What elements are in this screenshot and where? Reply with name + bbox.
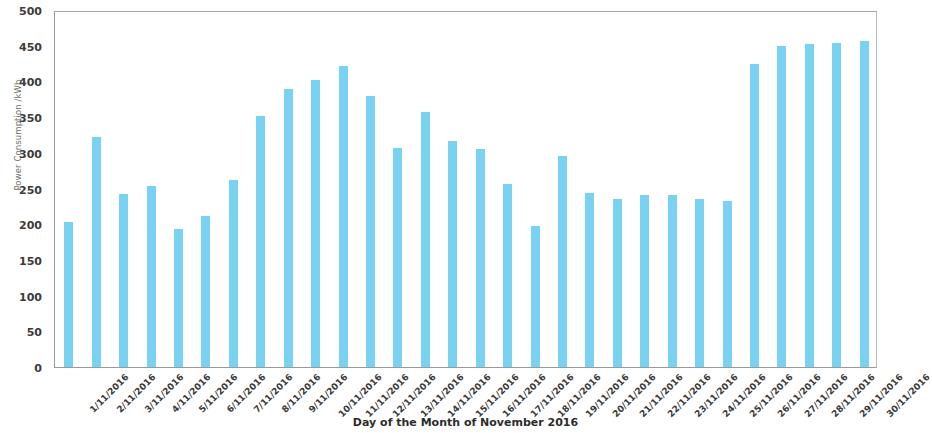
bar <box>64 222 73 367</box>
bar <box>503 184 512 367</box>
y-axis-tick-label: 150 <box>0 254 42 267</box>
bar <box>284 89 293 367</box>
y-axis-tick-labels: 050100150200250300350400450500 <box>0 0 50 380</box>
y-axis-tick-label: 500 <box>0 5 42 18</box>
bar <box>448 141 457 367</box>
bar <box>201 216 210 367</box>
bar <box>366 96 375 367</box>
bar <box>311 80 320 367</box>
bar <box>119 194 128 368</box>
bar <box>585 193 594 367</box>
plot-area <box>54 11 877 368</box>
bar <box>558 156 567 367</box>
bar <box>92 137 101 367</box>
bar <box>750 64 759 367</box>
y-axis-tick-label: 450 <box>0 40 42 53</box>
bar <box>777 46 786 367</box>
y-axis-tick-label: 50 <box>0 326 42 339</box>
y-axis-tick-label: 350 <box>0 112 42 125</box>
x-axis-tick-labels: 1/11/20162/11/20163/11/20164/11/20165/11… <box>54 370 877 416</box>
bar <box>393 148 402 367</box>
bar <box>476 149 485 367</box>
bar <box>668 195 677 367</box>
bars-layer <box>55 12 876 367</box>
bar <box>174 229 183 367</box>
y-axis-tick-label: 0 <box>0 362 42 375</box>
bar <box>805 44 814 367</box>
bar <box>421 112 430 367</box>
y-axis-tick-label: 400 <box>0 76 42 89</box>
bar <box>640 195 649 367</box>
bar <box>695 199 704 368</box>
bar <box>723 201 732 367</box>
x-axis-title: Day of the Month of November 2016 <box>54 416 877 429</box>
bar <box>531 226 540 367</box>
bar <box>256 116 265 367</box>
bar <box>860 41 869 367</box>
bar <box>229 180 238 367</box>
y-axis-tick-label: 300 <box>0 147 42 160</box>
bar <box>147 186 156 367</box>
bar <box>339 66 348 367</box>
bar <box>832 43 841 367</box>
y-axis-tick-label: 100 <box>0 290 42 303</box>
bar <box>613 199 622 368</box>
y-axis-tick-label: 250 <box>0 183 42 196</box>
y-axis-tick-label: 200 <box>0 219 42 232</box>
